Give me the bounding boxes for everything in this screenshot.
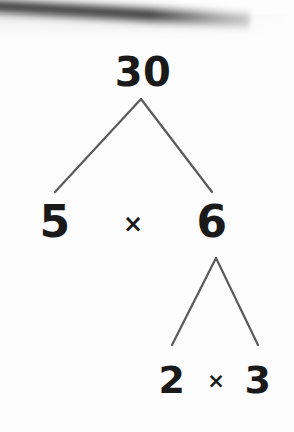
branch-lower-left (172, 258, 216, 345)
node-factor-3: 3 (245, 361, 272, 399)
node-factor-2: 2 (159, 361, 186, 399)
branch-upper-left (55, 99, 141, 192)
branch-lower-right (216, 258, 258, 345)
multiplication-operator-lower: × (207, 371, 225, 392)
factor-tree-canvas: 30 5 × 6 2 × 3 (0, 0, 294, 432)
branch-upper-right (141, 99, 212, 192)
node-factor-5: 5 (39, 200, 70, 244)
multiplication-operator-upper: × (123, 212, 143, 236)
node-root-30: 30 (115, 52, 172, 92)
node-factor-6: 6 (196, 200, 227, 244)
